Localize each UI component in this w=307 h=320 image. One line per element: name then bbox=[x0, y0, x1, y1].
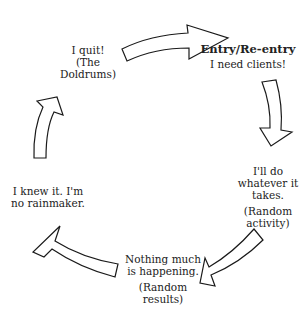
node-whatever-sub-2: activity) bbox=[246, 217, 289, 229]
node-whatever-line-1: I'll do bbox=[253, 165, 283, 177]
node-whatever: I'll do whatever it takes. (Random activ… bbox=[232, 165, 304, 229]
node-quit: I quit! (The Doldrums) bbox=[55, 44, 121, 80]
node-nothing-line-1: Nothing much bbox=[125, 253, 201, 265]
node-quit-line-1: I quit! bbox=[72, 44, 105, 56]
node-knew: I knew it. I'm no rainmaker. bbox=[6, 185, 90, 209]
node-knew-line-2: no rainmaker. bbox=[11, 197, 85, 209]
node-quit-line-2: (The bbox=[76, 56, 100, 68]
arrow-entry-to-whatever bbox=[260, 80, 292, 146]
arrow-knew-to-quit bbox=[34, 97, 63, 158]
node-whatever-line-2: whatever it bbox=[238, 177, 299, 189]
node-nothing: Nothing much is happening. (Random resul… bbox=[120, 253, 206, 305]
node-quit-line-3: Doldrums) bbox=[60, 68, 116, 80]
node-knew-line-1: I knew it. I'm bbox=[13, 185, 83, 197]
node-whatever-sub-1: (Random bbox=[244, 205, 292, 217]
node-nothing-sub-1: (Random bbox=[139, 281, 187, 293]
node-entry: Entry/Re-entry I need clients! bbox=[198, 43, 298, 70]
node-nothing-line-2: is happening. bbox=[127, 265, 199, 277]
arrow-whatever-to-nothing bbox=[200, 229, 263, 286]
node-entry-line: I need clients! bbox=[210, 58, 286, 70]
node-entry-title: Entry/Re-entry bbox=[201, 42, 296, 56]
node-nothing-sub-2: results) bbox=[143, 293, 183, 305]
node-whatever-line-3: takes. bbox=[252, 189, 284, 201]
arrow-nothing-to-knew bbox=[33, 226, 118, 277]
